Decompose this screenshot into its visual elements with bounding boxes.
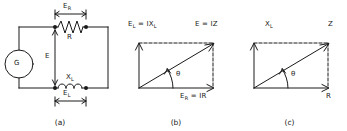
label-el-eq-sub: L <box>154 23 157 29</box>
generator-label: G <box>14 59 20 67</box>
panel-b-voltage-phasor: EL = IXL E = IZ ER = IR θ (b) <box>120 0 232 131</box>
inductor-label-sub: L <box>71 76 74 82</box>
resistor-symbol <box>58 21 83 33</box>
junction-dot-top <box>53 25 57 29</box>
junction-dot-bottom-right <box>84 86 88 90</box>
angle-theta-label-c: θ <box>291 70 295 78</box>
caption-b: (b) <box>120 118 232 127</box>
angle-theta-label-b: θ <box>176 70 180 78</box>
junction-dot-bottom <box>53 86 57 90</box>
panel-c-impedance-triangle: XL Z R θ (c) <box>232 0 347 131</box>
junction-dot-top-right <box>84 25 88 29</box>
caption-a: (a) <box>0 118 120 127</box>
inductor-label: XL <box>66 73 74 81</box>
label-el-eq: = IX <box>136 20 154 28</box>
resistor-label: R <box>67 33 72 41</box>
label-xl-c: XL <box>265 20 273 28</box>
label-z-c: Z <box>328 20 333 28</box>
impedance-resultant-line <box>254 44 328 88</box>
label-er-ir: ER = IR <box>180 92 207 100</box>
label-e-iz: E = IZ <box>195 20 218 28</box>
label-er-main: E <box>180 92 185 100</box>
label-el-main: E <box>128 20 133 28</box>
inductor-symbol <box>58 84 82 88</box>
figure-container: G E R XL ER EL (a) <box>0 0 347 131</box>
dim-label-er-sub: R <box>68 5 72 11</box>
dim-label-el: EL <box>63 89 71 97</box>
label-er-sub: R <box>185 95 189 101</box>
label-el-ixl: EL = IXL <box>128 20 157 28</box>
caption-c: (c) <box>232 118 347 127</box>
phasor-resultant-line <box>139 44 213 88</box>
panel-a-circuit: G E R XL ER EL (a) <box>0 0 120 131</box>
label-er-eq: = IR <box>188 92 206 100</box>
dim-label-er: ER <box>63 2 71 10</box>
dim-label-er-main: E <box>63 2 68 10</box>
voltage-e-label: E <box>45 52 50 60</box>
label-el-sub: L <box>133 23 136 29</box>
label-e-eq: = IZ <box>200 20 218 28</box>
dim-label-el-sub: L <box>68 92 71 98</box>
label-xl-sub: L <box>270 23 273 29</box>
dim-label-el-main: E <box>63 89 68 97</box>
label-r-c: R <box>326 92 331 100</box>
